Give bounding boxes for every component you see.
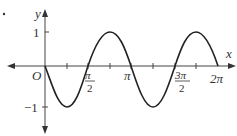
bullet-mark — [3, 13, 5, 15]
y-axis-up-arrow-icon — [42, 9, 48, 17]
x-tick-label-pi-over-2-num: π — [85, 69, 91, 81]
origin-label: O — [32, 68, 42, 83]
x-tick-label-pi: π — [124, 68, 131, 83]
sine-curve — [45, 32, 218, 107]
x-axis-right-arrow-icon — [228, 63, 236, 69]
x-tick-label-3pi-over-2-den: 2 — [179, 82, 185, 94]
y-tick-label-1: 1 — [33, 25, 40, 40]
x-tick-label-pi-over-2-den: 2 — [87, 82, 93, 94]
x-axis-left-arrow-icon — [7, 63, 15, 69]
y-axis-down-arrow-icon — [42, 126, 48, 134]
x-tick-label-2pi: 2π — [210, 71, 224, 86]
y-axis-label: y — [33, 6, 41, 21]
x-tick-label-3pi-over-2-num: 3π — [174, 69, 187, 81]
x-axis-label: x — [225, 46, 232, 61]
sine-graph: y x O 1 −1 π 2 π 3π 2 2π — [0, 0, 237, 136]
y-tick-label-neg1: −1 — [24, 100, 38, 115]
